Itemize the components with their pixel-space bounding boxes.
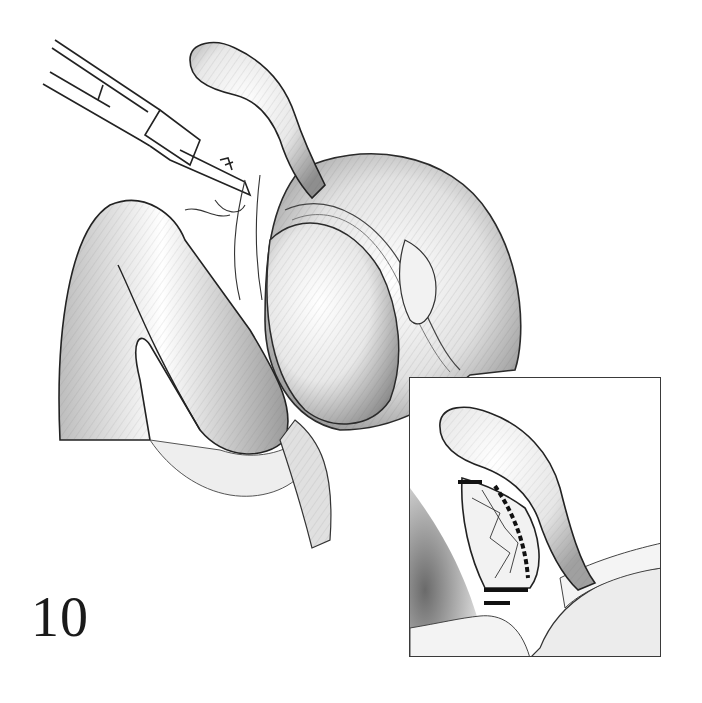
inset-detail-panel	[409, 377, 661, 657]
figure-number: 10	[31, 589, 89, 645]
appendix-shape	[190, 43, 325, 198]
inset-illustration	[410, 378, 661, 657]
